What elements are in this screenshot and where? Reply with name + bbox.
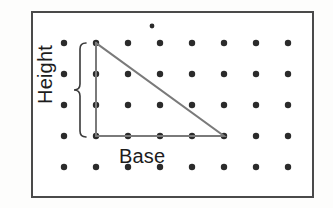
diagram-stage: Height Base xyxy=(0,0,333,208)
base-label: Base xyxy=(119,145,165,168)
diagram-frame xyxy=(31,11,314,198)
height-label: Height xyxy=(34,45,57,104)
